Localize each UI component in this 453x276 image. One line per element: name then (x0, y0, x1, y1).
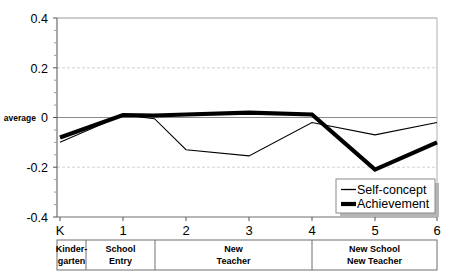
x-tick-labels: K 1 2 3 4 5 6 (56, 223, 441, 238)
legend-label-achievement: Achievement (357, 197, 430, 211)
y-tick-label-1: 0.2 (31, 62, 48, 76)
x-tick-label-1: 1 (119, 223, 126, 238)
x-tick-label-6: 6 (433, 223, 440, 238)
y-tick-label-3: -0.2 (26, 161, 48, 175)
x-tick-label-4: 4 (308, 223, 315, 238)
x-tick-label-5: 5 (371, 223, 378, 238)
x-axis-ticks (60, 217, 437, 221)
legend[interactable]: Self-concept Achievement (336, 179, 439, 217)
y-tick-label-2: 0 (41, 111, 48, 125)
phase-cell-3-line2: New Teacher (347, 256, 402, 266)
legend-label-self-concept: Self-concept (357, 183, 427, 197)
x-tick-label-2: 2 (182, 223, 189, 238)
chart-figure: 0.4 0.2 0 -0.2 -0.4 average K 1 2 3 (0, 0, 453, 276)
y-tick-label-4: -0.4 (26, 211, 48, 225)
phase-cell-1-line1: School (105, 244, 135, 254)
y-tick-label-0: 0.4 (31, 12, 48, 26)
phase-cell-0-line1: Kinder- (56, 244, 88, 254)
phase-cell-0-line2: garten (58, 256, 86, 266)
y-axis-title: average (4, 113, 36, 123)
chart-svg: 0.4 0.2 0 -0.2 -0.4 average K 1 2 3 (0, 0, 453, 276)
phase-cell-2-line2: Teacher (217, 256, 251, 266)
phase-cell-2-line1: New (224, 244, 244, 254)
phase-bar: Kinder- garten School Entry New Teacher … (56, 240, 437, 270)
x-tick-label-k: K (56, 223, 65, 238)
x-tick-label-3: 3 (245, 223, 252, 238)
phase-cell-3-line1: New School (349, 244, 400, 254)
phase-cell-1-line2: Entry (109, 256, 132, 266)
